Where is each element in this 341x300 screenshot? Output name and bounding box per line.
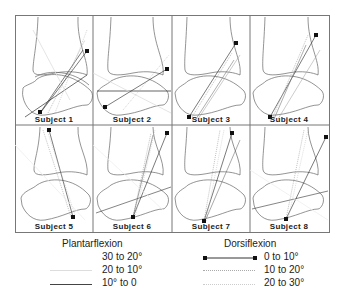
panel-subject-6 <box>93 127 171 220</box>
panel-subject-3 <box>175 17 245 119</box>
panel-label-subject-7: Subject 7 <box>172 222 250 231</box>
panel-grid-frame <box>15 15 330 233</box>
panel-subject-5 <box>15 127 90 220</box>
legend-dorsiflexion-item-1: 0 to 10° <box>264 251 299 262</box>
legend-dorsiflexion-title: Dorsiflexion <box>224 238 276 249</box>
legend-line-0-to-10 <box>202 254 258 262</box>
panel-label-subject-6: Subject 6 <box>93 222 171 231</box>
legend-line-20-to-10 <box>50 270 92 271</box>
legend-plantarflexion-item-3: 10° to 0 <box>102 277 137 288</box>
panel-subject-7 <box>175 127 245 223</box>
legend-dorsiflexion-item-3: 20 to 30° <box>264 277 304 288</box>
legend-line-20-to-30 <box>203 284 255 285</box>
endpoint-square-icon <box>203 256 207 260</box>
panel-subject-1 <box>23 17 93 117</box>
panel-label-subject-2: Subject 2 <box>93 115 171 124</box>
panel-label-subject-8: Subject 8 <box>250 222 328 231</box>
legend-line-10-to-0 <box>50 284 92 285</box>
panel-label-subject-4: Subject 4 <box>250 115 328 124</box>
panel-subject-8 <box>250 127 328 221</box>
legend-plantarflexion-item-2: 20 to 10° <box>102 264 142 275</box>
subject-panel-grid: Subject 1 Subject 2 Subject 3 Subject 4 … <box>15 15 330 233</box>
legend-dorsiflexion-item-2: 10 to 20° <box>264 264 304 275</box>
panel-subject-4 <box>253 17 323 119</box>
panel-label-subject-5: Subject 5 <box>15 222 93 231</box>
legend-plantarflexion-title: Plantarflexion <box>62 238 123 249</box>
legend-line-10-to-20 <box>203 270 255 271</box>
panel-subject-2 <box>93 17 171 115</box>
panel-label-subject-1: Subject 1 <box>15 115 93 124</box>
panel-label-subject-3: Subject 3 <box>172 115 250 124</box>
legend-plantarflexion-item-1: 30 to 20° <box>102 251 142 262</box>
endpoint-square-icon <box>253 256 257 260</box>
